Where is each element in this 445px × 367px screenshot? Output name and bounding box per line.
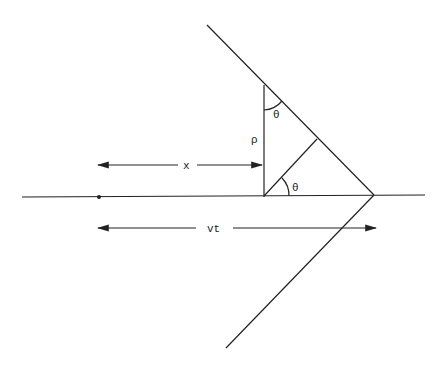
theta-label-top: θ — [273, 109, 280, 121]
upper-shock-line — [207, 25, 374, 195]
theta-label-bottom: θ — [292, 182, 299, 194]
x-label: x — [183, 160, 190, 172]
perpendicular-line — [264, 139, 317, 196]
mach-cone-diagram: x vt ρ θ θ — [0, 0, 445, 367]
theta-arc-bottom — [282, 178, 289, 196]
vt-label: vt — [207, 223, 220, 235]
rho-label: ρ — [251, 134, 258, 146]
horizontal-axis — [22, 195, 425, 197]
lower-shock-line — [226, 195, 374, 348]
source-point — [97, 195, 101, 199]
